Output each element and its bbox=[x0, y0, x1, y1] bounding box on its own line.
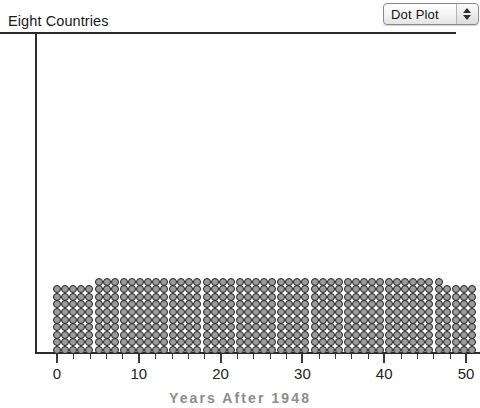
data-dot bbox=[360, 285, 368, 293]
data-dot bbox=[401, 285, 409, 293]
data-dot bbox=[327, 278, 335, 286]
data-dot bbox=[344, 285, 352, 293]
x-tick-minor bbox=[319, 354, 320, 359]
data-dot bbox=[193, 316, 201, 324]
x-tick-minor bbox=[450, 354, 451, 359]
data-dot bbox=[443, 293, 451, 301]
data-dot bbox=[285, 316, 293, 324]
data-dot bbox=[301, 331, 309, 339]
data-dot bbox=[103, 300, 111, 308]
data-dot bbox=[128, 338, 136, 346]
data-dot bbox=[260, 293, 268, 301]
data-dot bbox=[344, 300, 352, 308]
x-tick-label: 50 bbox=[458, 365, 475, 382]
data-dot bbox=[69, 331, 77, 339]
data-dot bbox=[185, 331, 193, 339]
data-dot bbox=[144, 300, 152, 308]
data-dot bbox=[152, 338, 160, 346]
data-dot bbox=[435, 293, 443, 301]
x-tick-minor bbox=[286, 354, 287, 359]
data-dot bbox=[95, 278, 103, 286]
data-dot bbox=[185, 300, 193, 308]
x-tick-major bbox=[138, 354, 140, 363]
data-dot bbox=[136, 308, 144, 316]
data-dot bbox=[177, 338, 185, 346]
data-dot bbox=[293, 278, 301, 286]
data-dot bbox=[193, 278, 201, 286]
data-dot bbox=[460, 316, 468, 324]
data-dot bbox=[136, 300, 144, 308]
data-dot bbox=[144, 308, 152, 316]
data-dot bbox=[211, 308, 219, 316]
data-dot bbox=[393, 285, 401, 293]
data-dot bbox=[409, 300, 417, 308]
data-dot bbox=[169, 293, 177, 301]
data-dot bbox=[260, 316, 268, 324]
data-dot bbox=[236, 293, 244, 301]
data-dot bbox=[435, 285, 443, 293]
data-dot bbox=[160, 285, 168, 293]
data-dot bbox=[368, 308, 376, 316]
stepper-arrows[interactable] bbox=[456, 4, 477, 24]
data-dot bbox=[152, 300, 160, 308]
data-dot bbox=[293, 316, 301, 324]
data-dot bbox=[61, 308, 69, 316]
data-dot bbox=[95, 323, 103, 331]
data-dot bbox=[219, 308, 227, 316]
plot-type-popup-button[interactable]: Dot Plot bbox=[383, 3, 479, 25]
data-dot bbox=[385, 316, 393, 324]
x-tick-major bbox=[301, 354, 303, 363]
data-dot bbox=[120, 338, 128, 346]
data-dot bbox=[111, 316, 119, 324]
triangle-down-icon bbox=[463, 15, 471, 20]
x-tick-minor bbox=[351, 354, 352, 359]
data-dot bbox=[376, 308, 384, 316]
data-dot bbox=[268, 338, 276, 346]
data-dot bbox=[61, 338, 69, 346]
data-dot bbox=[443, 308, 451, 316]
data-dot bbox=[460, 293, 468, 301]
data-dot bbox=[260, 285, 268, 293]
x-tick-minor bbox=[90, 354, 91, 359]
x-axis-title: Years After 1948 bbox=[0, 390, 480, 406]
data-dot bbox=[236, 308, 244, 316]
data-dot bbox=[344, 278, 352, 286]
data-dot bbox=[95, 331, 103, 339]
data-dot bbox=[360, 278, 368, 286]
data-dot bbox=[111, 300, 119, 308]
data-dot bbox=[311, 278, 319, 286]
data-dot bbox=[219, 300, 227, 308]
data-dot bbox=[144, 338, 152, 346]
data-dot bbox=[401, 323, 409, 331]
data-dot bbox=[344, 331, 352, 339]
data-dot bbox=[177, 323, 185, 331]
data-dot bbox=[393, 316, 401, 324]
x-tick-label: 10 bbox=[130, 365, 147, 382]
data-dot bbox=[120, 308, 128, 316]
data-dot bbox=[169, 323, 177, 331]
data-dot bbox=[260, 331, 268, 339]
x-tick-minor bbox=[368, 354, 369, 359]
data-dot bbox=[385, 331, 393, 339]
data-dot bbox=[53, 331, 61, 339]
data-dot bbox=[128, 308, 136, 316]
x-tick-label: 30 bbox=[294, 365, 311, 382]
data-dot bbox=[468, 338, 476, 346]
data-dot bbox=[452, 316, 460, 324]
x-tick-label: 0 bbox=[53, 365, 61, 382]
data-dot bbox=[452, 338, 460, 346]
data-dot bbox=[169, 316, 177, 324]
data-dot bbox=[177, 293, 185, 301]
data-dot bbox=[443, 331, 451, 339]
data-dot bbox=[77, 338, 85, 346]
data-dot bbox=[177, 278, 185, 286]
x-tick-minor bbox=[122, 354, 123, 359]
data-dot bbox=[193, 338, 201, 346]
data-dot bbox=[327, 316, 335, 324]
data-dot bbox=[409, 293, 417, 301]
data-dot bbox=[77, 323, 85, 331]
data-dot bbox=[252, 285, 260, 293]
data-dot bbox=[385, 323, 393, 331]
data-dot bbox=[160, 300, 168, 308]
data-dot bbox=[335, 285, 343, 293]
